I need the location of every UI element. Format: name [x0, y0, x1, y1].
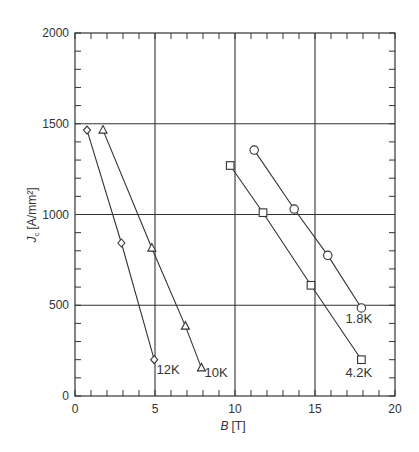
y-tick-label: 2000: [42, 26, 69, 40]
circle-marker: [290, 205, 298, 213]
series-line: [230, 165, 361, 359]
square-marker: [226, 162, 234, 170]
diamond-marker: [118, 239, 125, 247]
diamond-marker: [84, 126, 91, 134]
square-marker: [358, 356, 366, 364]
x-tick-label: 5: [152, 402, 159, 416]
circle-marker: [324, 251, 332, 259]
data-series: 12K10K4.2K1.8K: [84, 126, 373, 380]
series-10K: 10K: [99, 126, 228, 380]
series-label: 10K: [205, 365, 228, 380]
x-tick-label: 0: [72, 402, 79, 416]
y-tick-label: 500: [49, 298, 69, 312]
x-tick-labels: 05101520: [72, 402, 402, 416]
y-tick-label: 1500: [42, 117, 69, 131]
series-label: 1.8K: [345, 311, 372, 326]
series-label: 4.2K: [345, 365, 372, 380]
x-tick-label: 20: [388, 402, 402, 416]
grid-lines: [75, 33, 395, 396]
series-1-8K: 1.8K: [250, 146, 372, 327]
y-tick-labels: 0500100015002000: [42, 26, 69, 403]
series-12K: 12K: [84, 126, 181, 377]
x-tick-label: 15: [308, 402, 322, 416]
circle-marker: [250, 146, 258, 154]
x-tick-label: 10: [228, 402, 242, 416]
x-axis-title: B[T]: [220, 419, 245, 433]
series-4-2K: 4.2K: [226, 162, 372, 380]
triangle-marker: [181, 322, 189, 330]
y-tick-label: 1000: [42, 208, 69, 222]
square-marker: [259, 209, 267, 217]
square-marker: [307, 281, 315, 289]
jc-vs-b-chart: 05101520 0500100015002000 12K10K4.2K1.8K…: [0, 0, 419, 452]
y-tick-label: 0: [62, 389, 69, 403]
series-label: 12K: [157, 362, 180, 377]
triangle-marker: [99, 126, 107, 133]
y-axis-title: Jc[A/mm²]: [25, 188, 41, 244]
